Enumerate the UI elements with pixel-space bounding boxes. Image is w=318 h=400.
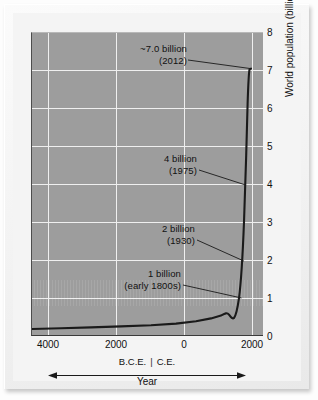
- leader-line-7-billion: [188, 60, 250, 69]
- y-tick-label-3: 3: [267, 217, 283, 228]
- era-separator: |: [146, 356, 156, 367]
- annotation-1-billion-line1: 1 billion: [75, 268, 181, 280]
- annotation-2-billion: 2 billion (1930): [109, 223, 195, 246]
- era-label-ce: C.E.: [157, 356, 175, 367]
- leader-line-4-billion: [199, 170, 246, 185]
- x-axis-title: Year: [31, 376, 263, 387]
- y-axis-title: World population (billions): [284, 0, 295, 97]
- y-tick-label-1: 1: [267, 293, 283, 304]
- annotation-7-billion-line1: ~7.0 billion: [101, 43, 187, 55]
- era-label-bce: B.C.E.: [119, 356, 146, 367]
- y-tick-label-6: 6: [267, 103, 283, 114]
- x-tick-label-2000-bce: 2000: [96, 339, 136, 350]
- x-tick-label-0: 0: [164, 339, 204, 350]
- leader-line-2-billion: [197, 240, 244, 261]
- x-tick-label-2000-ce: 2000: [232, 339, 272, 350]
- y-tick-label-5: 5: [267, 141, 283, 152]
- annotation-7-billion-line2: (2012): [101, 55, 187, 67]
- x-tick-label-4000-bce: 4000: [28, 339, 68, 350]
- annotation-1-billion-line2: (early 1800s): [75, 280, 181, 292]
- annotation-1-billion: 1 billion (early 1800s): [75, 268, 181, 291]
- figure-paper-frame: ~7.0 billion (2012) 4 billion (1975) 2 b…: [4, 4, 309, 389]
- annotation-4-billion-line2: (1975): [111, 165, 197, 177]
- world-population-chart-figure: ~7.0 billion (2012) 4 billion (1975) 2 b…: [0, 0, 318, 400]
- y-tick-label-8: 8: [267, 27, 283, 38]
- annotation-2-billion-line1: 2 billion: [109, 223, 195, 235]
- annotation-4-billion-line1: 4 billion: [111, 153, 197, 165]
- leader-line-1-billion: [183, 285, 242, 298]
- y-tick-label-7: 7: [267, 65, 283, 76]
- annotation-7-billion: ~7.0 billion (2012): [101, 43, 187, 66]
- era-label-row: B.C.E.|C.E.: [31, 356, 263, 367]
- y-tick-label-4: 4: [267, 179, 283, 190]
- y-tick-label-2: 2: [267, 255, 283, 266]
- annotation-2-billion-line2: (1930): [109, 235, 195, 247]
- annotation-4-billion: 4 billion (1975): [111, 153, 197, 176]
